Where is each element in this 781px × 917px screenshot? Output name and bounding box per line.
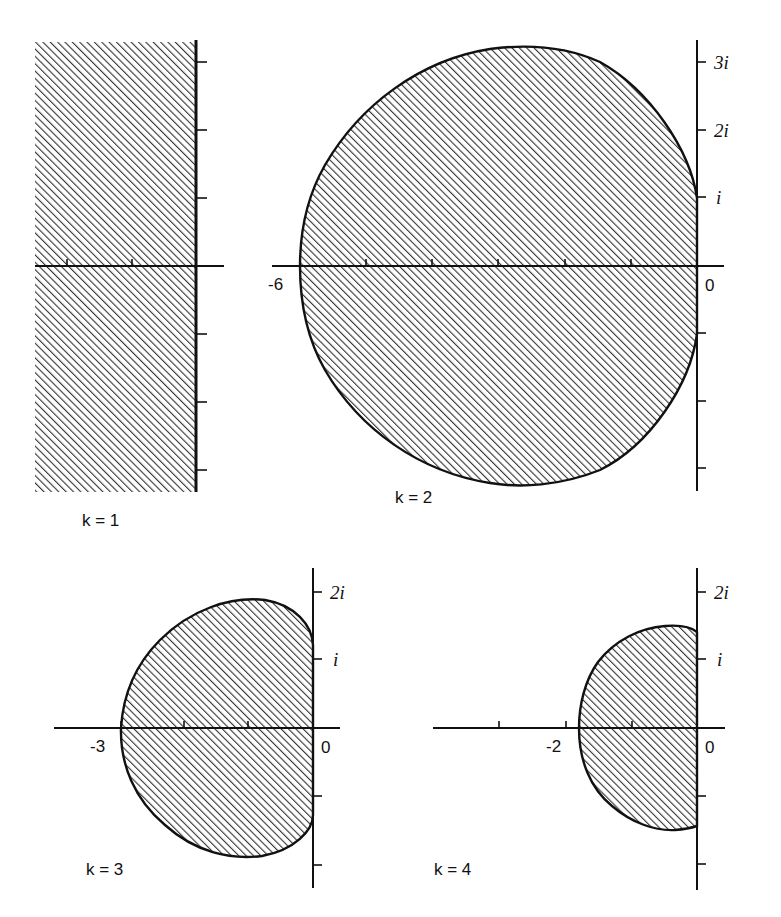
panel-label-k4: k = 4 [434, 860, 471, 879]
tick-label-neg3: -3 [90, 737, 105, 756]
tick-label-neg2: -2 [546, 737, 561, 756]
tick-label-2i-k3: 2i [330, 582, 345, 603]
tick-label-2i-k2: 2i [714, 120, 729, 141]
panel-label-k1: k = 1 [82, 511, 119, 530]
panel-label-k3: k = 3 [86, 860, 123, 879]
tick-label-i-k4: i [717, 649, 722, 670]
panel-k3: -3 0 2i i k = 3 [54, 568, 345, 888]
tick-label-zero-k2: 0 [705, 276, 714, 295]
tick-label-i-k2: i [716, 187, 721, 208]
tick-label-neg6: -6 [268, 275, 283, 294]
tick-label-2i-k4: 2i [714, 582, 729, 603]
tick-label-zero-k4: 0 [705, 738, 714, 757]
panel-label-k2: k = 2 [395, 488, 432, 507]
stability-regions-figure: k = 1 -6 0 3i 2i i k = 2 [0, 0, 781, 917]
panel-k2: -6 0 3i 2i i k = 2 [268, 40, 729, 507]
panel-k4: -2 0 2i i k = 4 [433, 568, 729, 890]
tick-label-zero-k3: 0 [321, 738, 330, 757]
tick-label-i-k3: i [333, 649, 338, 670]
tick-label-3i: 3i [713, 52, 729, 73]
panel-k1: k = 1 [35, 40, 224, 530]
